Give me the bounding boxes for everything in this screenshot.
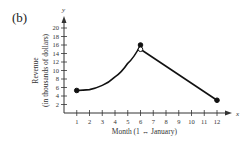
x-tick-label: 5 bbox=[126, 118, 129, 125]
x-axis-name: x bbox=[235, 110, 240, 118]
series-line-1 bbox=[77, 45, 141, 90]
x-tick-label: 9 bbox=[177, 118, 180, 125]
y-tick-label: 20 bbox=[53, 24, 60, 31]
x-tick-label: 11 bbox=[201, 118, 207, 125]
x-axis-arrow-icon bbox=[225, 111, 232, 116]
y-tick-label: 4 bbox=[56, 92, 60, 99]
x-tick-label: 12 bbox=[214, 118, 221, 125]
x-tick-label: 6 bbox=[139, 118, 143, 125]
y-tick-label: 18 bbox=[53, 33, 60, 40]
y-tick-label: 10 bbox=[53, 67, 60, 74]
y-tick-label: 12 bbox=[53, 58, 60, 65]
start-point-marker bbox=[138, 47, 143, 52]
series-line-2 bbox=[141, 49, 218, 100]
y-tick-label: 8 bbox=[56, 75, 59, 82]
chart-container: (b) xy1234567891011122468101214161820Mon… bbox=[0, 0, 244, 147]
y-axis-name: y bbox=[61, 6, 66, 14]
start-point-marker bbox=[74, 88, 79, 93]
x-tick-label: 8 bbox=[164, 118, 167, 125]
revenue-chart: xy1234567891011122468101214161820Month (… bbox=[0, 0, 244, 147]
y-tick-label: 14 bbox=[53, 50, 60, 57]
x-tick-label: 3 bbox=[101, 118, 104, 125]
y-tick-label: 16 bbox=[53, 41, 60, 48]
y-tick-label: 6 bbox=[56, 84, 60, 91]
y-axis-label-line2: (in thousands of dollars) bbox=[41, 33, 50, 107]
y-axis-label-line1: Revenue bbox=[31, 57, 40, 84]
x-tick-label: 4 bbox=[113, 118, 117, 125]
x-axis-label: Month (1 ↔ January) bbox=[112, 127, 178, 136]
y-axis-arrow-icon bbox=[62, 16, 67, 23]
x-tick-label: 2 bbox=[88, 118, 91, 125]
x-tick-label: 10 bbox=[188, 118, 195, 125]
y-tick-label: 2 bbox=[56, 101, 59, 108]
end-point-marker bbox=[215, 98, 220, 103]
x-tick-label: 7 bbox=[152, 118, 156, 125]
x-tick-label: 1 bbox=[75, 118, 78, 125]
